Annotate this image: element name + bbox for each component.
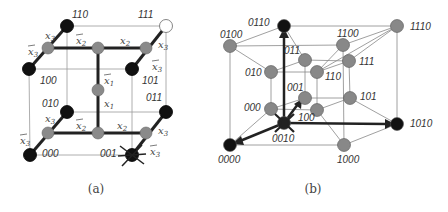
- vertex-node-110: [61, 20, 74, 33]
- mid-node: [42, 127, 54, 139]
- variable-label: x1: [104, 74, 114, 88]
- hypercube-node-1110: [391, 20, 404, 33]
- hypercube-node-1000: [338, 139, 351, 152]
- hypercube-node-011: [299, 54, 312, 67]
- svg-text:x3: x3: [150, 146, 161, 159]
- vertex-label: 001: [100, 148, 117, 159]
- figure-a-cube: 110111100101010011000001 x3x3x2x2x3x3x1x…: [20, 9, 173, 196]
- mid-node: [140, 127, 152, 139]
- caption-a: (a): [88, 182, 105, 196]
- vertex-node-101: [126, 63, 139, 76]
- variable-label: x2: [76, 34, 87, 48]
- vertex-label: 010: [42, 98, 59, 109]
- mid-node: [140, 42, 152, 54]
- svg-text:x2: x2: [76, 120, 87, 133]
- svg-text:x3: x3: [45, 30, 56, 43]
- variable-label: x3: [28, 45, 39, 59]
- svg-text:x3: x3: [28, 46, 39, 59]
- hypercube-node-001: [299, 92, 312, 105]
- svg-text:x3: x3: [158, 39, 169, 52]
- variable-label: x3: [158, 39, 169, 52]
- variable-label: x3: [152, 60, 163, 74]
- svg-text:x3: x3: [20, 135, 31, 148]
- hypercube-node-label: 0110: [248, 17, 270, 28]
- hypercube-node-label: 100: [298, 112, 315, 123]
- vertex-label: 011: [146, 92, 162, 103]
- variable-label: x3: [45, 30, 56, 43]
- hypercube-node-label: 110: [325, 71, 341, 82]
- variable-label: x2: [117, 120, 128, 133]
- svg-text:x3: x3: [45, 113, 56, 126]
- vertex-label: 111: [138, 9, 153, 20]
- hypercube-node-label: 0000: [218, 154, 241, 165]
- mid-node: [42, 42, 54, 54]
- svg-text:x1: x1: [104, 98, 114, 111]
- svg-text:x1: x1: [104, 75, 114, 88]
- hypercube-node-label: 111: [359, 56, 374, 67]
- hypercube-edges: [230, 26, 397, 145]
- hypercube-node-label: 010: [245, 67, 262, 78]
- hypercube-node-010: [265, 66, 278, 79]
- mid-node: [92, 84, 104, 96]
- hypercube-node-1100: [337, 39, 350, 52]
- hypercube-node-label: 1010: [410, 118, 433, 129]
- figure-b-hypercube: 0110111001001100011111010110001101000100…: [218, 17, 433, 196]
- svg-text:x2: x2: [76, 35, 87, 48]
- hypercube-node-label: 0010: [272, 133, 295, 144]
- hypercube-node-label: 1110: [410, 21, 431, 32]
- vertex-label: 101: [142, 75, 159, 86]
- svg-text:x3: x3: [158, 125, 169, 138]
- hypercube-node-0110: [278, 20, 291, 33]
- vertex-node-011: [160, 106, 173, 119]
- variable-label: x3: [20, 134, 31, 148]
- vertex-node-010: [61, 106, 74, 119]
- hypercube-node-label: 1100: [337, 28, 359, 39]
- caption-b: (b): [304, 182, 321, 196]
- vertex-node-100: [23, 63, 36, 76]
- vertex-label: 100: [40, 75, 57, 86]
- svg-text:x2: x2: [120, 35, 131, 48]
- variable-label: x2: [120, 35, 131, 48]
- svg-text:x2: x2: [117, 120, 128, 133]
- hypercube-node-label: 1000: [337, 154, 360, 165]
- hypercube-node-label: 011: [284, 45, 300, 56]
- vertex-label: 110: [72, 9, 88, 20]
- hypercube-node-label: 000: [244, 102, 261, 113]
- vertex-node-111: [160, 20, 173, 33]
- variable-label: x3: [150, 145, 161, 159]
- variable-label: x2: [76, 119, 87, 133]
- variable-label: x3: [45, 113, 56, 126]
- hypercube-labels: 0110111001001100011111010110001101000100…: [218, 17, 433, 165]
- hypercube-node-111: [343, 55, 356, 68]
- hypercube-node-0100: [224, 40, 237, 53]
- mid-node: [92, 42, 104, 54]
- hypercube-node-1010: [391, 118, 404, 131]
- hypercube-figure: 110111100101010011000001 x3x3x2x2x3x3x1x…: [0, 0, 448, 212]
- vertex-label: 000: [42, 148, 59, 159]
- vertex-node-000: [24, 149, 37, 162]
- hypercube-node-label: 0100: [220, 29, 243, 40]
- hypercube-node-label: 001: [287, 82, 304, 93]
- mid-node: [92, 127, 104, 139]
- svg-text:x3: x3: [152, 61, 163, 74]
- variable-label: x1: [104, 98, 114, 111]
- hypercube-node-110: [311, 66, 324, 79]
- variable-label: x3: [158, 125, 169, 138]
- hypercube-node-0000: [224, 139, 237, 152]
- hypercube-node-label: 101: [360, 91, 377, 102]
- hypercube-node-101: [344, 92, 357, 105]
